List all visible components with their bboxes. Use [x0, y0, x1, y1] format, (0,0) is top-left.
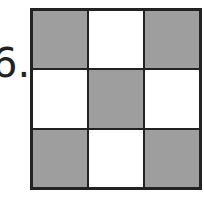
grid-cell-r2-c1-empty: [32, 69, 88, 128]
grid-cell-r3-c2-empty: [88, 129, 144, 188]
grid-cell-r1-c3-shaded: [144, 10, 200, 69]
grid-cell-r1-c2-empty: [88, 10, 144, 69]
grid-cell-r2-c2-shaded: [88, 69, 144, 128]
figure-number-label: 6.: [0, 43, 30, 83]
grid-cell-r3-c3-shaded: [144, 129, 200, 188]
checker-grid: [30, 8, 202, 190]
grid-cell-r1-c1-shaded: [32, 10, 88, 69]
grid-cell-r3-c1-shaded: [32, 129, 88, 188]
grid-cell-r2-c3-empty: [144, 69, 200, 128]
